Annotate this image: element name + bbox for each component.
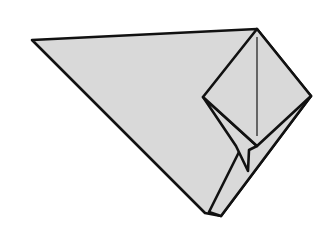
origami-diagram <box>0 0 332 238</box>
